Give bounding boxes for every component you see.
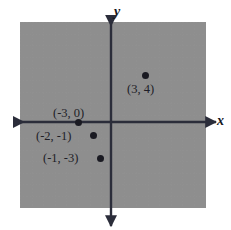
point-label: (-2, -1) xyxy=(36,130,71,143)
data-point xyxy=(90,132,97,139)
point-label: (-1, -3) xyxy=(43,152,78,165)
axes xyxy=(0,0,231,230)
data-point xyxy=(97,155,104,162)
coordinate-plane-graph: y x (3, 4) (-3, 0) (-2, -1) (-1, -3) xyxy=(0,0,231,230)
point-label: (3, 4) xyxy=(127,83,154,96)
data-point xyxy=(142,72,149,79)
point-label: (-3, 0) xyxy=(53,107,84,120)
y-axis-label: y xyxy=(114,5,120,19)
x-axis-label: x xyxy=(217,114,224,128)
